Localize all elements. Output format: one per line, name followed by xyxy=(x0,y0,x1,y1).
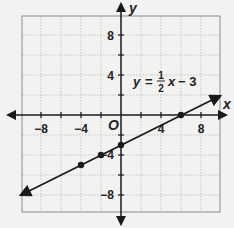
x-tick-label: −8 xyxy=(34,122,48,136)
y-tick-label: 8 xyxy=(107,29,114,43)
svg-text:=: = xyxy=(145,74,153,89)
coordinate-plane: −8 −4 4 8 8 4 −4 −8 O x y y = 1 2 x − 3 xyxy=(0,0,234,228)
svg-text:y: y xyxy=(132,74,141,89)
x-axis-label: x xyxy=(222,96,232,112)
svg-text:2: 2 xyxy=(158,83,164,94)
x-tick-label: −4 xyxy=(74,122,88,136)
y-axis-label: y xyxy=(128,0,138,16)
point-neg4-neg5 xyxy=(78,162,84,168)
equation-label: y = 1 2 x − 3 xyxy=(132,70,196,94)
point-0-neg3 xyxy=(118,142,124,148)
svg-text:1: 1 xyxy=(158,70,164,81)
y-tick-label: 4 xyxy=(107,69,114,83)
origin-label: O xyxy=(108,117,119,133)
svg-text:x: x xyxy=(167,74,176,89)
x-tick-label: 8 xyxy=(198,122,205,136)
y-tick-label: −8 xyxy=(100,188,114,202)
point-6-0 xyxy=(178,112,184,118)
point-neg2-neg4 xyxy=(98,152,104,158)
svg-text:− 3: − 3 xyxy=(178,74,196,89)
